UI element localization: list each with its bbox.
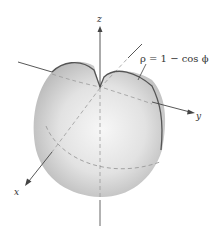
y-axis-label: y: [195, 111, 202, 121]
z-axis-label: z: [96, 14, 102, 24]
cardioid-surface-figure: z y x ρ = 1 − cos ϕ: [0, 0, 216, 232]
equation-label: ρ = 1 − cos ϕ: [140, 53, 209, 64]
surface-body: [34, 62, 165, 197]
back-line: [18, 62, 52, 72]
y-axis-arrowhead: [187, 110, 195, 115]
z-axis-arrowhead: [98, 26, 103, 32]
x-axis-label: x: [14, 187, 19, 197]
